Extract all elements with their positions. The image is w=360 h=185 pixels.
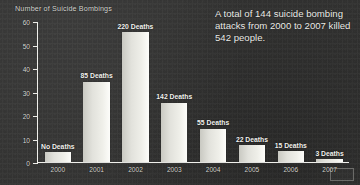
y-axis-tick [33,22,38,23]
bar-2007[interactable]: 3 Deaths [316,159,342,161]
y-axis-tick [33,116,38,117]
bar-value-label: 220 Deaths [118,23,154,30]
x-axis-label-2004: 2004 [194,166,233,173]
bar-value-label: 3 Deaths [315,150,343,157]
bar-column: 55 Deaths [194,22,233,162]
x-axis-labels: 20002001200220032004200520062007 [38,166,349,173]
x-axis-label-2006: 2006 [271,166,310,173]
y-axis-tick [33,163,38,164]
bar-2006[interactable]: 15 Deaths [278,151,304,162]
scan-artifact-box [330,168,354,181]
x-axis-label-2005: 2005 [233,166,272,173]
y-axis-tick [33,140,38,141]
bar-series: No Deaths85 Deaths220 Deaths142 Deaths55… [38,22,349,162]
bar-value-label: 22 Deaths [236,136,268,143]
bar-column: 220 Deaths [116,22,155,162]
y-axis-title: Number of Suicide Bombings [15,4,112,13]
y-axis-tick-label: 30 [23,89,30,96]
y-axis-tick-label: 40 [23,66,30,73]
y-axis-tick-label: 10 [23,136,30,143]
figure-panel: Number of Suicide Bombings A total of 14… [0,0,360,185]
bar-2001[interactable]: 85 Deaths [83,82,109,162]
bar-2002[interactable]: 220 Deaths [122,32,148,161]
x-axis-line [37,162,349,163]
bar-value-label: 15 Deaths [275,142,307,149]
plot-area: 0102030405060 No Deaths85 Deaths220 Deat… [37,22,349,163]
bar-column: 142 Deaths [155,22,194,162]
bar-column: 15 Deaths [271,22,310,162]
bar-column: 85 Deaths [77,22,116,162]
bar-value-label: 85 Deaths [81,72,113,79]
x-axis-label-2003: 2003 [155,166,194,173]
y-axis-tick-label: 50 [23,42,30,49]
y-axis-tick-label: 0 [26,160,30,167]
y-axis-tick [33,93,38,94]
bar-2000[interactable]: No Deaths [45,152,71,161]
y-axis-tick [33,69,38,70]
x-axis-label-2001: 2001 [77,166,116,173]
bar-2004[interactable]: 55 Deaths [200,129,226,162]
bar-column: 22 Deaths [233,22,272,162]
bar-value-label: 55 Deaths [197,119,229,126]
bar-2005[interactable]: 22 Deaths [239,145,265,161]
bar-column: 3 Deaths [310,22,349,162]
y-axis-tick-label: 20 [23,113,30,120]
bar-value-label: No Deaths [41,143,75,150]
bar-2003[interactable]: 142 Deaths [161,103,187,162]
x-axis-label-2000: 2000 [38,166,77,173]
bar-value-label: 142 Deaths [156,93,192,100]
y-axis-tick [33,46,38,47]
y-axis-tick-label: 60 [23,19,30,26]
x-axis-label-2002: 2002 [116,166,155,173]
bar-column: No Deaths [38,22,77,162]
